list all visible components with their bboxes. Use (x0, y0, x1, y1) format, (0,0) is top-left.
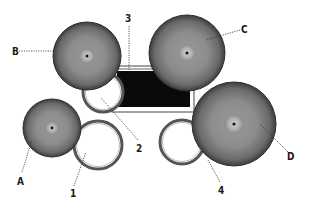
label-d: D (287, 151, 294, 162)
drum-kit-diagram: B C 3 2 A 1 4 D (0, 0, 309, 211)
cymbal-d (192, 82, 276, 166)
cymbal-a (23, 99, 81, 157)
label-2: 2 (136, 143, 142, 154)
label-1: 1 (70, 188, 76, 199)
label-a: A (17, 176, 24, 187)
cymbal-b (53, 22, 121, 90)
label-4: 4 (218, 185, 224, 196)
label-c: C (241, 24, 248, 35)
label-3: 3 (125, 13, 131, 24)
label-b: B (12, 46, 19, 57)
cymbal-c (149, 15, 225, 91)
